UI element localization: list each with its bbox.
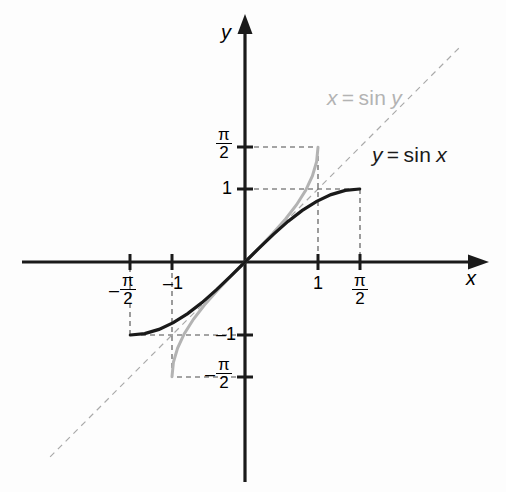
x-axis	[22, 255, 489, 270]
y-tick-label-pi-over-2: π 2	[216, 126, 232, 162]
x-axis-label: x	[466, 268, 476, 288]
y-tick-label-neg-1: –1	[216, 325, 236, 343]
annotation-sine-lhs: y	[372, 143, 383, 166]
x-tick-denominator-pos: 2	[352, 290, 368, 308]
annotation-y-equals-sin-x: y=sinx	[372, 144, 447, 165]
y-tick-label-1: 1	[222, 179, 232, 197]
annotation-arcsine-fn: sin	[358, 86, 386, 109]
y-axis-label: y	[221, 22, 231, 42]
x-tick-label-pi-over-2: π 2	[352, 272, 368, 308]
annotation-sine-eq: =	[387, 143, 400, 166]
x-tick-denominator: 2	[120, 290, 136, 308]
y-tick-neg-sign: –	[205, 365, 215, 383]
y-tick-denominator-neg: 2	[216, 374, 232, 392]
y-axis	[238, 14, 253, 482]
annotation-arcsine-lhs: x	[327, 86, 338, 109]
annotation-arcsine-eq: =	[342, 86, 355, 109]
x-tick-label-neg-pi-over-2: – π 2	[109, 272, 136, 308]
x-tick-label-neg-1: –1	[163, 274, 183, 292]
sine-inverse-graph-figure: x y y=sinx x=siny – π 2 –1 1 π 2 π 2 1 –…	[0, 0, 506, 492]
y-tick-numerator: π	[216, 126, 232, 144]
annotation-sine-arg: x	[436, 143, 447, 166]
annotation-x-equals-sin-y: x=siny	[327, 87, 402, 108]
y-tick-label-neg-pi-over-2: – π 2	[205, 356, 232, 392]
annotation-sine-fn: sin	[403, 143, 431, 166]
y-tick-numerator-neg: π	[216, 356, 232, 374]
annotation-arcsine-arg: y	[391, 86, 402, 109]
x-tick-label-1: 1	[313, 274, 323, 292]
x-tick-numerator: π	[120, 272, 136, 290]
x-tick-numerator-pos: π	[352, 272, 368, 290]
x-tick-neg-sign: –	[109, 281, 119, 299]
graph-canvas	[0, 0, 506, 492]
y-tick-denominator: 2	[216, 144, 232, 162]
